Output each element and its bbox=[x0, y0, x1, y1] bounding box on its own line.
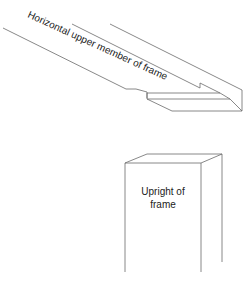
upright bbox=[125, 154, 222, 272]
upright-label-line1: Upright of bbox=[141, 186, 185, 197]
upright-front-face bbox=[125, 163, 201, 272]
horizontal-member-label: Horizontal upper member of frame bbox=[26, 9, 170, 82]
member-step-left bbox=[126, 89, 147, 98]
frame-diagram: Horizontal upper member of frame Upright… bbox=[0, 0, 249, 282]
upright-label-line2: frame bbox=[150, 199, 176, 210]
member-tenon-top bbox=[147, 83, 220, 93]
member-front-bottom-edge bbox=[3, 28, 126, 89]
upright-top-face bbox=[125, 154, 222, 163]
member-tenon-face bbox=[147, 93, 230, 99]
member-end-edge bbox=[230, 99, 242, 111]
horizontal-member bbox=[3, 24, 242, 111]
